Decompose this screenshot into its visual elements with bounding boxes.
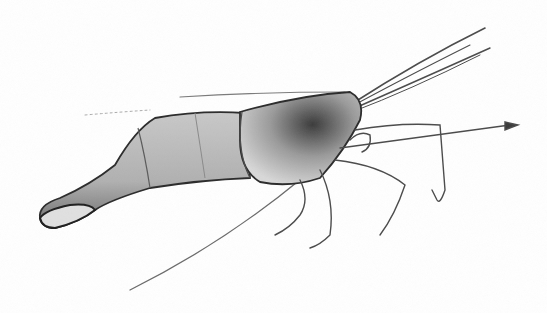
paper-grain — [0, 0, 547, 313]
shrimp-drawing — [0, 0, 547, 313]
illustration-canvas — [0, 0, 547, 313]
